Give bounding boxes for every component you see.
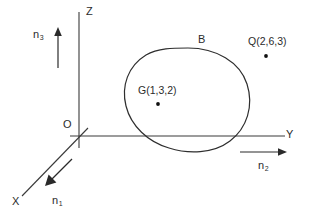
- z-axis-label: Z: [86, 6, 93, 17]
- point-g-label: G(1,3,2): [138, 85, 177, 96]
- n2-arrow-head-icon: [278, 148, 287, 156]
- x-axis-line: [22, 128, 88, 196]
- x-axis-label: X: [12, 196, 19, 207]
- origin-label: O: [63, 119, 72, 130]
- y-axis-label: Y: [286, 129, 293, 140]
- region-b-label: B: [198, 34, 205, 45]
- n3-label-subscript: 3: [39, 34, 43, 41]
- n2-label-subscript: 2: [264, 165, 268, 172]
- n1-vector-label: n1: [52, 195, 63, 207]
- n1-vector-line: [50, 159, 72, 181]
- n2-vector-label: n2: [258, 160, 269, 172]
- diagram-svg: [0, 0, 314, 218]
- point-q-label: Q(2,6,3): [248, 36, 287, 47]
- n3-arrow-head-icon: [54, 27, 62, 36]
- point-q-dot: [264, 54, 268, 58]
- diagram-canvas: Z Y X O n3 n2 n1 B G(1,3,2) Q(2,6,3): [0, 0, 314, 218]
- n1-label-subscript: 1: [58, 200, 62, 207]
- n3-vector-label: n3: [33, 29, 44, 41]
- point-g-dot: [156, 102, 160, 106]
